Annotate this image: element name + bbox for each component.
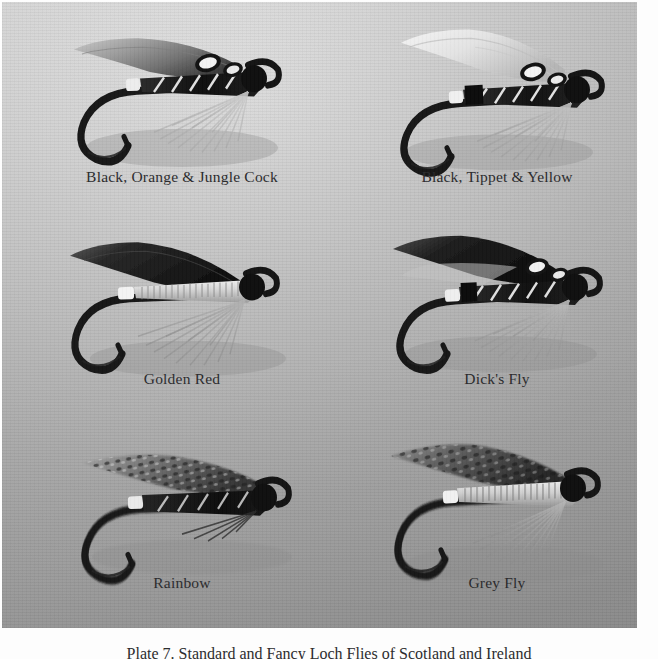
fly-caption: Black, Orange & Jungle Cock — [42, 168, 322, 186]
fly-cell-black-tippet-yellow: Black, Tippet & Yellow — [357, 16, 637, 206]
fly-caption: Dick's Fly — [357, 370, 637, 388]
fly-cell-golden-red: Golden Red — [42, 220, 322, 410]
fly-caption: Grey Fly — [357, 574, 637, 592]
fly-cell-grey-fly: Grey Fly — [357, 424, 637, 619]
image-page: Black, Orange & Jungle Cock — [0, 0, 658, 659]
fly-plate-photograph: Black, Orange & Jungle Cock — [2, 2, 637, 628]
fly-caption: Golden Red — [42, 370, 322, 388]
plate-bottom-caption: Plate 7. Standard and Fancy Loch Flies o… — [0, 645, 658, 659]
fly-caption: Rainbow — [42, 574, 322, 592]
fly-cell-dicks-fly: Dick's Fly — [357, 220, 637, 410]
fly-cell-black-orange-jungle-cock: Black, Orange & Jungle Cock — [42, 16, 322, 206]
fly-caption: Black, Tippet & Yellow — [357, 168, 637, 186]
fly-cell-rainbow: Rainbow — [42, 424, 322, 619]
